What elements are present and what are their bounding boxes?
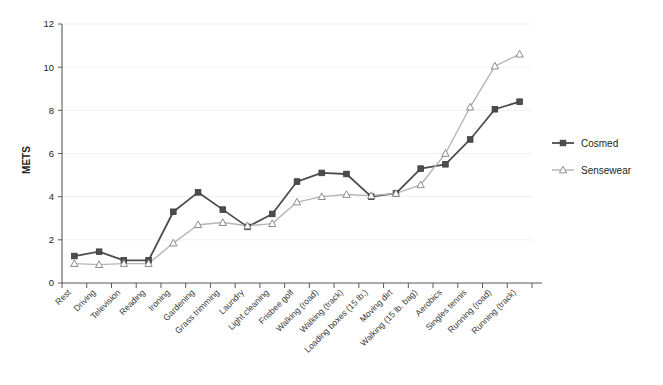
y-tick-label: 10 [43,62,54,73]
series-line-sensewear [74,54,519,264]
data-point-marker-triangle [516,50,523,57]
data-point-marker-square [195,190,201,196]
legend-item-label-cosmed: Cosmed [581,138,618,149]
y-tick-label: 12 [43,18,54,29]
x-category-label: Reading [117,287,147,317]
y-tick-label: 4 [49,191,54,202]
data-point-marker-square [171,209,177,215]
x-category-label: Grass trimming [173,287,221,335]
data-series-group [71,50,523,267]
y-axis-title-label: METS [21,146,32,174]
y-tick-label: 2 [49,234,54,245]
legend-marker-square [560,140,566,146]
data-point-marker-square [443,161,449,167]
legend-item-label-sensewear: Sensewear [581,165,632,176]
data-point-marker-square [294,179,300,185]
data-point-marker-square [492,106,498,112]
data-point-marker-square [467,137,473,143]
y-tick-labels: 024681012 [43,18,62,288]
x-category-labels: RestDrivingTelevisionReadingIroningGarde… [53,287,518,355]
y-axis-title: METS [21,146,32,174]
x-category-label: Running (track) [469,287,518,336]
mets-line-chart: 024681012 RestDrivingTelevisionReadingIr… [0,0,663,385]
data-point-marker-square [319,170,325,176]
x-category-label: Rest [53,287,73,307]
gridlines-group [62,24,532,240]
data-point-marker-square [517,99,523,105]
data-point-marker-square [344,171,350,177]
data-point-marker-square [96,249,102,255]
x-tick-marks [62,283,532,288]
y-tick-label: 6 [49,148,54,159]
y-tick-label: 8 [49,105,54,116]
data-point-marker-triangle [467,103,474,110]
legend: CosmedSensewear [552,138,632,176]
data-point-marker-square [418,166,424,172]
data-point-marker-square [220,207,226,213]
data-point-marker-square [72,253,78,259]
y-tick-label: 0 [49,277,54,288]
data-point-marker-square [269,211,275,217]
chart-figure: 024681012 RestDrivingTelevisionReadingIr… [0,0,663,385]
